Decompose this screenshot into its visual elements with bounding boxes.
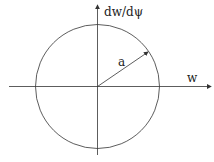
radius-label: a — [118, 55, 125, 69]
phase-plane-diagram: dw/dψ w a — [0, 0, 214, 162]
y-axis-label: dw/dψ — [104, 5, 143, 19]
x-axis-label: w — [187, 71, 198, 85]
